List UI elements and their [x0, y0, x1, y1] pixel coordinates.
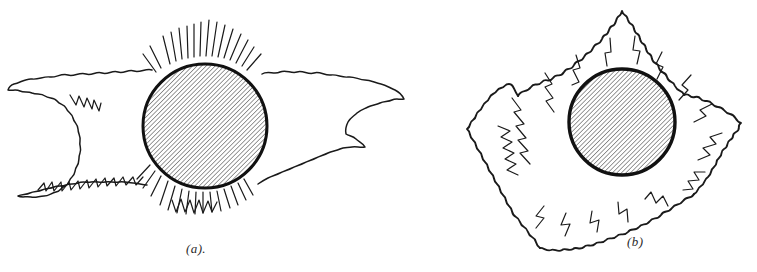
solar-disk-a — [140, 60, 272, 192]
figure-panel-b — [400, 0, 757, 272]
figure-panel-a — [0, 0, 420, 272]
panel-a-drawing — [0, 0, 420, 272]
panel-b-caption: (b) — [627, 234, 643, 250]
solar-disk-b — [565, 65, 680, 180]
panel-b-drawing — [400, 0, 757, 272]
panel-a-caption: (a). — [186, 241, 206, 257]
figure-page: (a). (b) — [0, 0, 757, 272]
